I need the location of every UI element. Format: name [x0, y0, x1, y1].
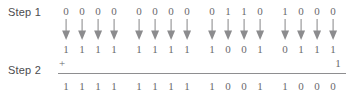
bit-digit: 1 — [106, 78, 122, 94]
bit-digit: 0 — [74, 3, 90, 19]
bit-digit: 1 — [293, 41, 309, 57]
bit-digit: 1 — [220, 3, 236, 19]
nibble-group: 1111 — [58, 41, 122, 57]
plus-operator: + — [59, 58, 65, 69]
bit-digit: 0 — [220, 41, 236, 57]
nibble-group: 0110 — [204, 3, 268, 19]
bit-digit: 1 — [74, 78, 90, 94]
bit-digit: 0 — [163, 3, 179, 19]
step-1-label: Step 1 — [8, 6, 41, 18]
bit-digit: 1 — [163, 78, 179, 94]
bit-digit: 1 — [90, 41, 106, 57]
down-arrow-icon — [309, 19, 325, 41]
bit-digit: 0 — [309, 78, 325, 94]
bit-digit: 1 — [131, 78, 147, 94]
nibble-group: 0000 — [131, 3, 195, 19]
bit-digit: 0 — [58, 3, 74, 19]
nibble-group: 1000 — [277, 3, 341, 19]
down-arrow-icon — [131, 19, 147, 41]
bit-digit: 1 — [58, 78, 74, 94]
bit-digit: 0 — [204, 3, 220, 19]
bit-digit: 0 — [90, 3, 106, 19]
step-2-label: Step 2 — [8, 64, 41, 76]
binary-addition-diagram: Step 1 Step 2 0000000001101000 111111111… — [0, 0, 351, 97]
bit-grid: 0000000001101000 1111111110010111 111111… — [58, 0, 346, 97]
down-arrow-icon — [147, 19, 163, 41]
bit-digit: 1 — [325, 41, 341, 57]
bit-digit: 1 — [147, 41, 163, 57]
bit-digit: 0 — [131, 3, 147, 19]
bit-digit: 0 — [220, 78, 236, 94]
bit-digit: 0 — [325, 3, 341, 19]
down-arrow-icon — [90, 19, 106, 41]
bit-digit: 0 — [277, 41, 293, 57]
bit-digit: 0 — [252, 3, 268, 19]
down-arrow-icon — [236, 19, 252, 41]
down-arrow-icon — [74, 19, 90, 41]
bit-digit: 1 — [309, 41, 325, 57]
bit-digit: 1 — [252, 78, 268, 94]
bit-digit: 1 — [252, 41, 268, 57]
nibble-group — [277, 19, 341, 41]
down-arrow-icon — [106, 19, 122, 41]
nibble-group: 1111 — [131, 78, 195, 94]
sum-rule-divider — [58, 73, 346, 74]
down-arrow-icon — [277, 19, 293, 41]
down-arrow-icon — [220, 19, 236, 41]
bit-digit: 1 — [131, 41, 147, 57]
invert-arrows-row — [58, 19, 346, 41]
nibble-group — [204, 19, 268, 41]
down-arrow-icon — [325, 19, 341, 41]
nibble-group: 1001 — [204, 41, 268, 57]
down-arrow-icon — [179, 19, 195, 41]
bit-digit: 0 — [236, 78, 252, 94]
bit-digit: 1 — [204, 78, 220, 94]
down-arrow-icon — [293, 19, 309, 41]
carry-in-digit: 1 — [330, 58, 346, 69]
nibble-group: 1001 — [204, 78, 268, 94]
twos-complement-result-row: 1111111110011000 — [58, 78, 346, 94]
down-arrow-icon — [204, 19, 220, 41]
bit-digit: 1 — [58, 41, 74, 57]
down-arrow-icon — [58, 19, 74, 41]
down-arrow-icon — [163, 19, 179, 41]
bit-digit: 1 — [179, 78, 195, 94]
bit-digit: 1 — [277, 78, 293, 94]
down-arrow-icon — [252, 19, 268, 41]
bit-digit: 0 — [236, 41, 252, 57]
nibble-group: 1111 — [58, 78, 122, 94]
bit-digit: 0 — [309, 3, 325, 19]
bit-digit: 0 — [293, 3, 309, 19]
nibble-group: 1000 — [277, 78, 341, 94]
bit-digit: 1 — [236, 3, 252, 19]
bit-digit: 0 — [106, 3, 122, 19]
ones-complement-row: 1111111110010111 — [58, 41, 346, 57]
nibble-group: 0111 — [277, 41, 341, 57]
bit-digit: 0 — [325, 78, 341, 94]
nibble-group: 1111 — [131, 41, 195, 57]
bit-digit: 1 — [204, 41, 220, 57]
bit-digit: 1 — [74, 41, 90, 57]
bit-digit: 1 — [90, 78, 106, 94]
bit-digit: 1 — [163, 41, 179, 57]
original-value-row: 0000000001101000 — [58, 3, 346, 19]
bit-digit: 0 — [147, 3, 163, 19]
bit-digit: 1 — [277, 3, 293, 19]
bit-digit: 1 — [179, 41, 195, 57]
nibble-group — [58, 19, 122, 41]
bit-digit: 0 — [293, 78, 309, 94]
nibble-group: 0000 — [58, 3, 122, 19]
bit-digit: 1 — [147, 78, 163, 94]
bit-digit: 1 — [106, 41, 122, 57]
nibble-group — [131, 19, 195, 41]
bit-digit: 0 — [179, 3, 195, 19]
